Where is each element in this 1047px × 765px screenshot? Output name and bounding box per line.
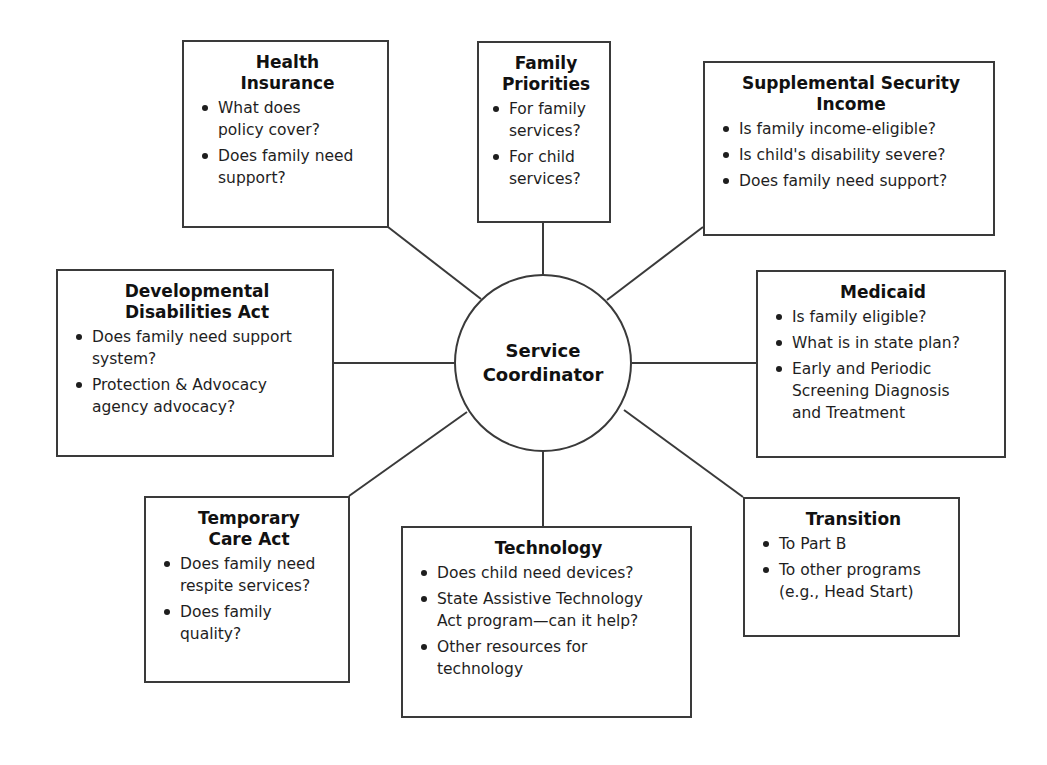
connector-health-insurance — [388, 227, 481, 299]
bullet-icon — [723, 178, 729, 184]
bullet-icon — [723, 152, 729, 158]
box-medicaid: Medicaid Is family eligible? What is in … — [756, 270, 1006, 458]
hub-label: Service Coordinator — [483, 339, 604, 387]
box-title: Family Priorities — [491, 53, 601, 95]
bullet-icon — [76, 334, 82, 340]
item-text: What is in state plan? — [792, 334, 960, 352]
box-developmental-disabilities-act: Developmental Disabilities Act Does fami… — [56, 269, 334, 457]
box-supplemental-security-income: Supplemental Security Income Is family i… — [703, 61, 995, 236]
item-text: Is family income-eligible? — [739, 120, 936, 138]
list-item: What does policy cover? — [200, 97, 375, 141]
bullet-icon — [723, 126, 729, 132]
item-text: Is child's disability severe? — [739, 146, 945, 164]
box-title: Transition — [761, 509, 946, 530]
box-list: To Part B To other programs (e.g., Head … — [761, 533, 946, 603]
item-text: State Assistive Technology Act program—c… — [437, 590, 643, 630]
box-title: Technology — [419, 538, 678, 559]
bullet-icon — [421, 596, 427, 602]
item-text: What does policy cover? — [218, 99, 320, 139]
list-item: Other resources for technology — [419, 636, 678, 680]
connector-ssi — [607, 227, 703, 300]
item-text: For family services? — [509, 100, 586, 140]
bullet-icon — [493, 106, 499, 112]
list-item: Does family need support? — [721, 170, 981, 192]
item-text: For child services? — [509, 148, 581, 188]
item-text: Early and Periodic Screening Diagnosis a… — [792, 360, 950, 422]
list-item: Does child need devices? — [419, 562, 678, 584]
list-item: Is family income-eligible? — [721, 118, 981, 140]
box-family-priorities: Family Priorities For family services? F… — [477, 41, 611, 223]
box-title: Supplemental Security Income — [721, 73, 981, 115]
bullet-icon — [776, 366, 782, 372]
box-list: Does family need respite services? Does … — [162, 553, 336, 645]
list-item: To other programs (e.g., Head Start) — [761, 559, 946, 603]
list-item: Does family quality? — [162, 601, 336, 645]
box-temporary-care-act: Temporary Care Act Does family need resp… — [144, 496, 350, 683]
list-item: Is child's disability severe? — [721, 144, 981, 166]
item-text: Does family need support? — [739, 172, 947, 190]
bullet-icon — [164, 561, 170, 567]
bullet-icon — [164, 609, 170, 615]
bullet-icon — [763, 541, 769, 547]
box-list: Is family eligible? What is in state pla… — [774, 306, 992, 424]
connector-transition — [624, 410, 743, 497]
item-text: To other programs (e.g., Head Start) — [779, 561, 921, 601]
connector-temporary-care — [349, 412, 467, 496]
item-text: Does child need devices? — [437, 564, 634, 582]
bullet-icon — [493, 154, 499, 160]
list-item: Does family need support system? — [74, 326, 320, 370]
box-list: Is family income-eligible? Is child's di… — [721, 118, 981, 192]
box-list: For family services? For child services? — [491, 98, 601, 190]
bullet-icon — [202, 105, 208, 111]
bullet-icon — [76, 382, 82, 388]
list-item: Protection & Advocacy agency advocacy? — [74, 374, 320, 418]
bullet-icon — [202, 153, 208, 159]
list-item: For family services? — [491, 98, 601, 142]
item-text: Does family need respite services? — [180, 555, 315, 595]
box-list: Does family need support system? Protect… — [74, 326, 320, 418]
list-item: For child services? — [491, 146, 601, 190]
list-item: What is in state plan? — [774, 332, 992, 354]
item-text: Does family quality? — [180, 603, 272, 643]
box-transition: Transition To Part B To other programs (… — [743, 497, 960, 637]
bullet-icon — [763, 567, 769, 573]
bullet-icon — [421, 570, 427, 576]
list-item: State Assistive Technology Act program—c… — [419, 588, 678, 632]
item-text: Is family eligible? — [792, 308, 927, 326]
box-list: Does child need devices? State Assistive… — [419, 562, 678, 680]
item-text: To Part B — [779, 535, 846, 553]
bullet-icon — [776, 340, 782, 346]
list-item: Does family need support? — [200, 145, 375, 189]
list-item: Early and Periodic Screening Diagnosis a… — [774, 358, 992, 424]
bullet-icon — [421, 644, 427, 650]
list-item: Is family eligible? — [774, 306, 992, 328]
item-text: Does family need support system? — [92, 328, 292, 368]
box-title: Temporary Care Act — [162, 508, 336, 550]
list-item: To Part B — [761, 533, 946, 555]
service-coordinator-hub: Service Coordinator — [454, 274, 632, 452]
item-text: Does family need support? — [218, 147, 353, 187]
item-text: Protection & Advocacy agency advocacy? — [92, 376, 267, 416]
list-item: Does family need respite services? — [162, 553, 336, 597]
bullet-icon — [776, 314, 782, 320]
item-text: Other resources for technology — [437, 638, 587, 678]
box-title: Health Insurance — [200, 52, 375, 94]
box-technology: Technology Does child need devices? Stat… — [401, 526, 692, 718]
box-title: Medicaid — [774, 282, 992, 303]
box-title: Developmental Disabilities Act — [74, 281, 320, 323]
box-health-insurance: Health Insurance What does policy cover?… — [182, 40, 389, 228]
box-list: What does policy cover? Does family need… — [200, 97, 375, 189]
